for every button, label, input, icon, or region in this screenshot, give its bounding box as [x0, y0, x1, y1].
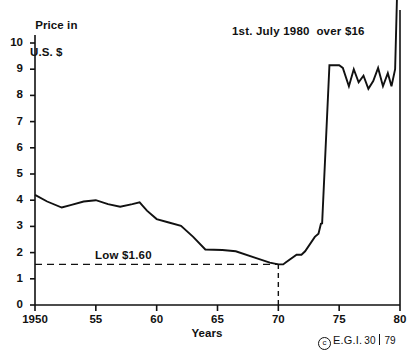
y-tick-label: 9	[3, 62, 23, 74]
chart-reference-lines	[35, 264, 278, 305]
copyright-divider	[379, 334, 380, 345]
y-axis-label-line1: Price in	[35, 19, 77, 31]
x-tick-label: 55	[76, 313, 116, 325]
y-tick-label: 0	[3, 298, 23, 310]
data-series-line	[35, 0, 400, 264]
copyright-icon: c	[318, 337, 331, 350]
y-tick-label: 7	[3, 115, 23, 127]
low-annotation: Low $1.60	[95, 249, 152, 261]
copyright-plate-number: 30	[364, 335, 375, 346]
chart-data-line	[35, 0, 400, 264]
x-tick-label: 80	[380, 313, 414, 325]
copyright-year: 79	[384, 335, 395, 346]
y-tick-label: 5	[3, 167, 23, 179]
chart-axes	[35, 10, 400, 305]
y-tick-label: 1	[3, 272, 23, 284]
y-tick-label: 4	[3, 193, 23, 205]
y-tick-label: 2	[3, 246, 23, 258]
x-tick-label: 75	[319, 313, 359, 325]
x-tick-label: 1950	[15, 313, 55, 325]
y-tick-label: 10	[3, 36, 23, 48]
copyright-credit: c E.G.I. 30 79	[318, 333, 396, 349]
y-axis-label: Price in U.S. $	[22, 5, 78, 86]
price-chart: Price in U.S. $ Years 012345678910 19505…	[0, 0, 414, 357]
y-tick-label: 8	[3, 88, 23, 100]
copyright-organization: E.G.I.	[333, 334, 362, 346]
y-tick-label: 6	[3, 141, 23, 153]
peak-annotation: 1st. July 1980 over $16	[232, 25, 365, 37]
y-tick-label: 3	[3, 219, 23, 231]
y-axis-label-line2: U.S. $	[30, 46, 78, 60]
x-tick-label: 65	[198, 313, 238, 325]
x-tick-label: 60	[137, 313, 177, 325]
x-tick-label: 70	[258, 313, 298, 325]
chart-tick-marks	[30, 43, 400, 311]
